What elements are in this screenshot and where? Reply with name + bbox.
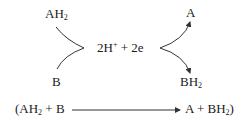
label-AH2: AH2 (45, 7, 68, 21)
label-protons-electrons: 2H+ + 2e (97, 41, 144, 55)
arrow-to-BH2 (160, 48, 190, 73)
overall-equation-lhs: (AH2 + B (15, 102, 65, 116)
label-BH2: BH2 (180, 75, 202, 89)
converging-curve-bottom (57, 48, 84, 69)
label-B: B (52, 75, 61, 89)
label-A: A (186, 6, 195, 20)
arrow-to-A (160, 22, 190, 48)
converging-curve-top (56, 27, 84, 48)
overall-equation-rhs: A + BH2) (185, 102, 234, 116)
